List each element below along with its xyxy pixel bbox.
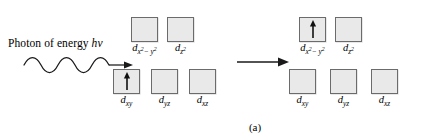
orbital-box[interactable] xyxy=(371,69,398,94)
orbital-box[interactable] xyxy=(151,69,178,94)
orbital-label: dx2− y2 xyxy=(300,43,324,54)
orbital-box-right-dx2y2[interactable]: dx2− y2 xyxy=(299,17,326,42)
orbital-label: dxz xyxy=(197,95,208,106)
orbital-box[interactable] xyxy=(131,17,158,42)
up-arrow-icon xyxy=(309,20,317,39)
arrow-right-icon xyxy=(236,53,290,71)
orbital-box-right-dxz[interactable]: dxz xyxy=(371,69,398,94)
orbital-box-right-dz2[interactable]: dz2 xyxy=(335,17,362,42)
orbital-box-left-dx2y2[interactable]: dx2− y2 xyxy=(131,17,158,42)
photon-energy-symbol: hν xyxy=(92,37,103,49)
orbital-box[interactable] xyxy=(167,17,194,42)
orbital-box-right-dxy[interactable]: dxy xyxy=(289,69,316,94)
orbital-label: dxy xyxy=(121,95,133,106)
orbital-label: dyz xyxy=(159,95,170,106)
orbital-label: dyz xyxy=(338,95,349,106)
orbital-box[interactable] xyxy=(289,69,316,94)
orbital-label: dz2 xyxy=(175,43,186,54)
orbital-label: dx2− y2 xyxy=(132,43,156,54)
orbital-box-right-dyz[interactable]: dyz xyxy=(330,69,357,94)
orbital-excitation-figure: Photon of energy hν dx2− y2 dz2 xyxy=(0,0,427,140)
photon-energy-label: Photon of energy hν xyxy=(8,37,103,49)
photon-energy-text: Photon of energy xyxy=(8,37,92,49)
orbital-box[interactable] xyxy=(335,17,362,42)
orbital-box-left-dxy[interactable]: dxy xyxy=(113,69,140,94)
panel-caption: (a) xyxy=(240,121,270,133)
orbital-box[interactable] xyxy=(189,69,216,94)
orbital-label: dz2 xyxy=(343,43,354,54)
orbital-box-left-dxz[interactable]: dxz xyxy=(189,69,216,94)
orbital-box-left-dyz[interactable]: dyz xyxy=(151,69,178,94)
orbital-box[interactable] xyxy=(330,69,357,94)
orbital-label: dxz xyxy=(379,95,390,106)
orbital-label: dxy xyxy=(297,95,309,106)
orbital-box-left-dz2[interactable]: dz2 xyxy=(167,17,194,42)
up-arrow-icon xyxy=(123,72,131,91)
